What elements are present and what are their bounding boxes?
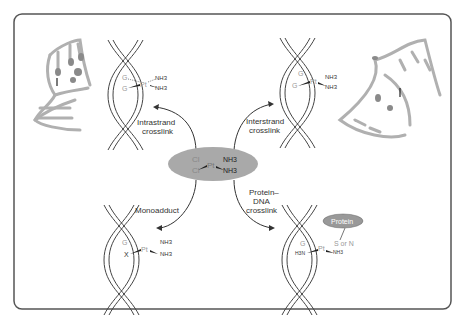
svg-text:G: G <box>300 240 305 247</box>
svg-text:Cl: Cl <box>192 166 200 175</box>
protein-dna-label-line3: crosslink <box>246 206 278 215</box>
metal-pt: Pt <box>140 81 147 88</box>
ligand-nh3-bottom: NH3 <box>155 85 168 91</box>
protein-label: Protein <box>331 218 353 225</box>
monoadduct-label: Monoadduct <box>135 206 180 215</box>
svg-text:NH3: NH3 <box>325 84 338 90</box>
ligand-g-top: G <box>122 74 127 81</box>
interstrand-label-line2: crosslink <box>249 126 281 135</box>
protein-dna-label-line2: DNA <box>253 197 271 206</box>
svg-text:X: X <box>124 251 129 258</box>
svg-text:Pt: Pt <box>310 78 317 85</box>
svg-text:NH3: NH3 <box>325 74 338 80</box>
intrastrand-label-line2: crosslink <box>142 127 174 136</box>
ligand-nh3-top: NH3 <box>155 75 168 81</box>
svg-text:G: G <box>298 70 303 77</box>
svg-text:Pt: Pt <box>141 246 148 253</box>
svg-text:G: G <box>122 239 127 246</box>
svg-text:H3N: H3N <box>295 250 305 256</box>
svg-text:NH3: NH3 <box>333 249 343 255</box>
protein-dna-label-line1: Protein– <box>249 188 279 197</box>
ligand-g-bottom: G <box>122 85 127 92</box>
cisplatin-adducts-diagram: G G Pt NH3 NH3 Intrastrand crosslink G G… <box>0 0 463 322</box>
svg-text:NH3: NH3 <box>223 156 237 163</box>
svg-text:Cl: Cl <box>192 155 200 164</box>
svg-text:Pt: Pt <box>207 161 215 170</box>
svg-text:NH3: NH3 <box>160 251 173 257</box>
svg-text:S or N: S or N <box>334 240 354 247</box>
intrastrand-label-line1: Intrastrand <box>137 118 175 127</box>
svg-text:G: G <box>292 82 297 89</box>
svg-text:Pt: Pt <box>318 245 325 252</box>
interstrand-label-line1: Interstrand <box>246 117 284 126</box>
svg-text:NH3: NH3 <box>223 167 237 174</box>
svg-text:NH3: NH3 <box>160 239 173 245</box>
